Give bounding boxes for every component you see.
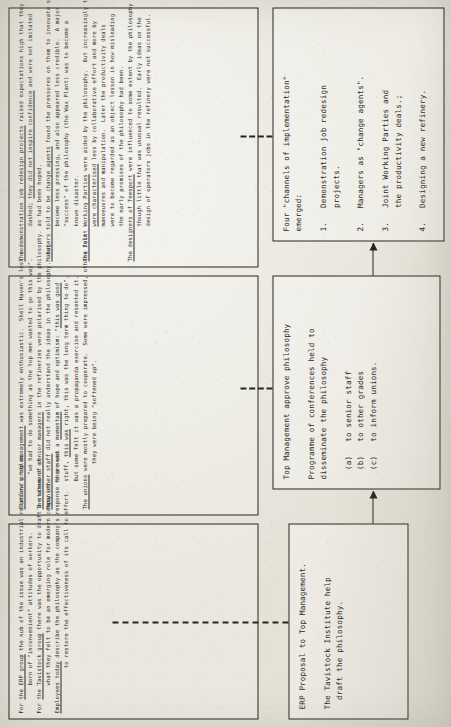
text-line: (b) to other grades <box>354 285 366 479</box>
text-line <box>367 17 379 231</box>
arrow-box2-to-box3 <box>372 243 373 275</box>
text-line: The views of senior managers in the refi… <box>34 281 43 509</box>
text-line: emerged: <box>292 17 304 231</box>
channels-of-implementation-box-text: Four "channels of implementation"emerged… <box>273 8 434 240</box>
text-line: 1. Demonstration job redesign <box>317 17 329 231</box>
annotation-top-management: Stanlow's top management was extremely e… <box>8 275 258 515</box>
annotation-erp-proposal: For the ERP group the nub of the issue w… <box>8 523 258 719</box>
text-line: as had been hoped. <box>34 13 43 261</box>
text-line: draft the philosophy. <box>333 533 345 709</box>
erp-proposal-box-text: ERP Proposal to Top Management. The Tavi… <box>289 524 351 718</box>
text-line: disseminate the philosophy <box>317 285 329 479</box>
text-line: But some felt it was a propaganda exerci… <box>71 281 80 509</box>
text-line: Four "channels of implementation" <box>280 17 292 231</box>
text-line: "success" of the philosophy (the Wax Pla… <box>61 13 70 261</box>
text-line: though little that was unusual resulted.… <box>134 13 143 261</box>
text-line: projects. <box>330 17 342 231</box>
text-line: dashed; they did not inspire confidence … <box>25 13 34 261</box>
annotation-top-management-text: Stanlow's top management was extremely e… <box>8 275 106 515</box>
text-line: ERP Proposal to Top Management. <box>296 533 308 709</box>
text-line <box>292 285 304 479</box>
text-line: For the Tavistock group there was the op… <box>34 529 43 713</box>
annotation-channels-of-implementation: The demonstration job redesign projects … <box>8 7 258 267</box>
text-line: there was a momentum of hope and optimis… <box>52 281 61 509</box>
annotation-channels-of-implementation-text: The demonstration job redesign projects … <box>8 7 160 267</box>
text-line: born of "inconvenient" attitudes of work… <box>25 529 34 713</box>
text-line: (c) to inform unions. <box>367 285 379 479</box>
text-line: Programme of conferences held to <box>305 285 317 479</box>
scanned-page: ERP Proposal to Top Management. The Tavi… <box>0 0 451 727</box>
flowchart-document: ERP Proposal to Top Management. The Tavi… <box>0 0 451 727</box>
erp-proposal-box: ERP Proposal to Top Management. The Tavi… <box>288 523 408 719</box>
text-line: "we had to do something as the top men w… <box>25 281 34 509</box>
text-line: the productivity deals.; <box>392 17 404 231</box>
text-line: become less pressing, and also appeared … <box>52 13 61 261</box>
text-line: The demonstration job redesign projects … <box>16 13 25 261</box>
annotation-erp-proposal-text: For the ERP group the nub of the issue w… <box>8 523 79 719</box>
rotated-document-stage: ERP Proposal to Top Management. The Tavi… <box>0 0 451 727</box>
text-line <box>342 17 354 231</box>
text-line: Many other staff did not really understa… <box>43 281 52 509</box>
text-line: The Joint Working Parties were aided by … <box>80 13 89 261</box>
text-line: The Tavistock Institute help <box>321 533 333 709</box>
text-line: 4. Designing a new refinery. <box>416 17 428 231</box>
text-line: were to become regarded as an object les… <box>107 13 116 261</box>
text-line: 2. Managers as "change agents". <box>354 17 366 231</box>
text-line: what they felt to be an emerging role fo… <box>43 529 52 713</box>
text-line: Employees today describe the philosophy … <box>52 529 61 713</box>
text-line: Managers told to be change agents found … <box>43 13 52 261</box>
text-line: Top Management approve philosophy <box>280 285 292 479</box>
text-line: were characterised less by collaborative… <box>89 13 98 261</box>
channels-of-implementation-box: Four "channels of implementation"emerged… <box>272 7 444 241</box>
text-line: stuff, this was right, this was the long… <box>61 281 70 509</box>
text-line <box>330 285 342 479</box>
text-line <box>305 17 317 231</box>
text-line <box>308 533 320 709</box>
text-line: For the ERP group the nub of the issue w… <box>16 529 25 713</box>
text-line: 3. Joint Working Parties and <box>379 17 391 231</box>
text-line: The designers of Teesport were influence… <box>125 13 134 261</box>
text-line: they were being "softened up". <box>89 281 98 509</box>
text-line: to restore the effectiveness of its call… <box>61 529 70 713</box>
top-management-approve-box-text: Top Management approve philosophy Progra… <box>273 276 384 488</box>
text-line: known disaster. <box>71 13 80 261</box>
text-line: The unions were mostly prepared to coope… <box>80 281 89 509</box>
text-line: Stanlow's top management was extremely e… <box>16 281 25 509</box>
text-line: the early promises of the philosophy had… <box>116 13 125 261</box>
text-line: design of operators jobs in the refinery… <box>143 13 152 261</box>
text-line: (a) to senior staff <box>342 285 354 479</box>
arrow-box1-to-box2 <box>372 491 373 523</box>
text-line <box>404 17 416 231</box>
top-management-approve-box: Top Management approve philosophy Progra… <box>272 275 440 489</box>
text-line: manoeuvres and manipulation. Later the p… <box>98 13 107 261</box>
